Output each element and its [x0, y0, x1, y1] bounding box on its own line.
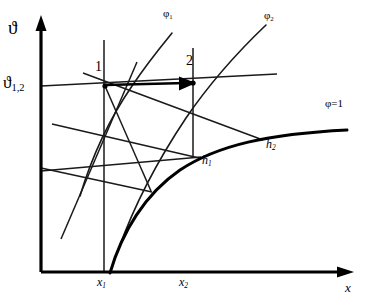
x-axis-arrowhead	[337, 267, 354, 278]
x-tick-label-x1-sub: 1	[102, 281, 106, 290]
saturation-curve-phi-equals-1	[110, 130, 347, 273]
y-axis-label: ϑ	[8, 18, 17, 37]
x-tick-label-x2-sub: 2	[184, 281, 188, 290]
y-axis-arrowhead	[36, 15, 47, 31]
diagram-canvas	[0, 0, 368, 304]
isenthalp-line-to-h1	[52, 124, 199, 158]
enthalpy-point-h1-label-sub: 1	[208, 159, 212, 168]
isenthalp-line-lower-left	[41, 168, 152, 192]
enthalpy-point-h1-label: h1	[202, 154, 212, 167]
phi1-curve-label: φ1	[163, 8, 173, 21]
enthalpy-point-h2-label: h2	[266, 138, 276, 151]
state-point-2-label: 2	[186, 54, 193, 68]
psychrometric-diagram: ϑ ϑ1,2 φ1 φ2 φ=1 1 2 h1 h2 x1 x2 x	[0, 0, 368, 304]
diagonal-line-through-point1	[61, 62, 137, 239]
phi2-curve-label: φ2	[264, 10, 274, 23]
y-tick-label-theta-1-2: ϑ1,2	[3, 74, 25, 93]
process-arrow-shaft	[105, 83, 186, 85]
x-tick-label-x2: x2	[179, 276, 188, 289]
phi1-humidity-curve	[80, 33, 172, 196]
y-tick-label-theta-1-2-sub: 1,2	[11, 82, 24, 93]
state-point-1-label: 1	[95, 60, 102, 74]
enthalpy-point-h2-label-sub: 2	[272, 143, 276, 152]
x-axis-label: x	[345, 281, 351, 294]
isotherm-line-lower	[41, 157, 201, 171]
phi2-curve-label-sub: 2	[270, 15, 273, 22]
phi1-curve-label-sub: 1	[169, 13, 172, 20]
state-point-1-marker	[102, 83, 107, 88]
x-tick-label-x1: x1	[97, 276, 106, 289]
state-point-2-marker	[190, 80, 195, 85]
saturation-curve-label: φ=1	[325, 98, 343, 109]
